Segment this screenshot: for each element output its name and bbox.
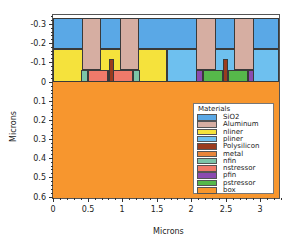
legend-swatch <box>197 129 217 136</box>
y-tick <box>49 177 53 178</box>
legend-swatch <box>197 151 217 158</box>
region-nstressor <box>113 70 133 82</box>
y-minor-tick <box>51 169 53 170</box>
x-minor-tick <box>60 198 61 200</box>
y-minor-tick <box>51 143 53 144</box>
legend-swatch <box>197 187 217 194</box>
x-minor-tick <box>108 198 109 200</box>
y-minor-tick <box>51 131 53 132</box>
x-tick-label: 0.5 <box>82 205 95 214</box>
y-minor-tick <box>51 189 53 190</box>
region-aluminum <box>234 18 254 70</box>
y-tick-label: -0.3 <box>10 20 46 29</box>
y-minor-tick <box>51 32 53 33</box>
y-minor-tick <box>51 162 53 163</box>
x-tick-label: 1.5 <box>151 205 164 214</box>
y-minor-tick <box>51 166 53 167</box>
y-minor-tick <box>51 173 53 174</box>
y-tick <box>49 197 53 198</box>
x-axis-title: Microns <box>153 227 184 236</box>
legend-swatch <box>197 180 217 187</box>
y-minor-tick <box>51 35 53 36</box>
y-tick-label: -0.2 <box>10 39 46 48</box>
legend-item: box <box>197 187 273 194</box>
x-minor-tick <box>267 198 268 200</box>
region-pfin <box>248 70 254 82</box>
y-tick-label: 0.4 <box>10 154 46 163</box>
x-minor-tick <box>95 198 96 200</box>
legend-swatch <box>197 158 217 165</box>
y-minor-tick <box>51 47 53 48</box>
region-aluminum <box>196 18 216 70</box>
x-minor-tick <box>184 198 185 200</box>
y-minor-tick <box>51 193 53 194</box>
y-minor-tick <box>51 28 53 29</box>
region-pfin <box>196 70 203 82</box>
region-nfin <box>133 70 140 82</box>
y-tick <box>49 62 53 63</box>
x-minor-tick <box>102 198 103 200</box>
x-tick-label: 1 <box>119 205 124 214</box>
x-minor-tick <box>81 198 82 200</box>
y-minor-tick <box>51 66 53 67</box>
y-minor-tick <box>51 181 53 182</box>
x-minor-tick <box>143 198 144 200</box>
region-aluminum <box>120 18 139 70</box>
legend-swatch <box>197 165 217 172</box>
y-minor-tick <box>51 116 53 117</box>
y-minor-tick <box>51 58 53 59</box>
legend-swatch <box>197 143 217 150</box>
x-minor-tick <box>240 198 241 200</box>
legend-title: Materials <box>198 105 230 113</box>
y-minor-tick <box>51 147 53 148</box>
y-minor-tick <box>51 51 53 52</box>
x-minor-tick <box>177 198 178 200</box>
y-minor-tick <box>51 105 53 106</box>
x-minor-tick <box>171 198 172 200</box>
x-minor-tick <box>129 198 130 200</box>
legend-swatch <box>197 172 217 179</box>
x-minor-tick <box>274 198 275 200</box>
x-minor-tick <box>74 198 75 200</box>
x-tick <box>260 198 261 202</box>
legend-swatch <box>197 121 217 128</box>
legend-swatch <box>197 136 217 143</box>
x-tick <box>226 198 227 202</box>
region-pstressor <box>228 70 248 82</box>
x-tick-label: 3 <box>257 205 262 214</box>
y-tick-label: 0 <box>10 78 46 87</box>
x-minor-tick <box>164 198 165 200</box>
y-minor-tick <box>51 135 53 136</box>
y-tick <box>49 139 53 140</box>
x-tick-label: 2.5 <box>220 205 233 214</box>
x-tick <box>157 198 158 202</box>
y-minor-tick <box>51 185 53 186</box>
y-tick <box>49 43 53 44</box>
y-axis-title: Microns <box>9 111 18 142</box>
y-tick-label: 0.1 <box>10 97 46 106</box>
x-minor-tick <box>150 198 151 200</box>
y-minor-tick <box>51 90 53 91</box>
y-minor-tick <box>51 39 53 40</box>
y-tick <box>49 24 53 25</box>
region-aluminum <box>82 18 101 70</box>
y-minor-tick <box>51 70 53 71</box>
y-tick <box>49 101 53 102</box>
y-minor-tick <box>51 109 53 110</box>
y-minor-tick <box>51 97 53 98</box>
y-minor-tick <box>51 150 53 151</box>
y-minor-tick <box>51 93 53 94</box>
legend-swatch <box>197 114 217 121</box>
y-tick-label: 0.6 <box>10 193 46 202</box>
x-minor-tick <box>198 198 199 200</box>
y-minor-tick <box>51 112 53 113</box>
region-nfin <box>81 70 88 82</box>
x-minor-tick <box>233 198 234 200</box>
x-tick <box>191 198 192 202</box>
x-minor-tick <box>281 198 282 200</box>
x-minor-tick <box>253 198 254 200</box>
y-minor-tick <box>51 154 53 155</box>
x-minor-tick <box>246 198 247 200</box>
y-minor-tick <box>51 86 53 87</box>
y-minor-tick <box>51 124 53 125</box>
